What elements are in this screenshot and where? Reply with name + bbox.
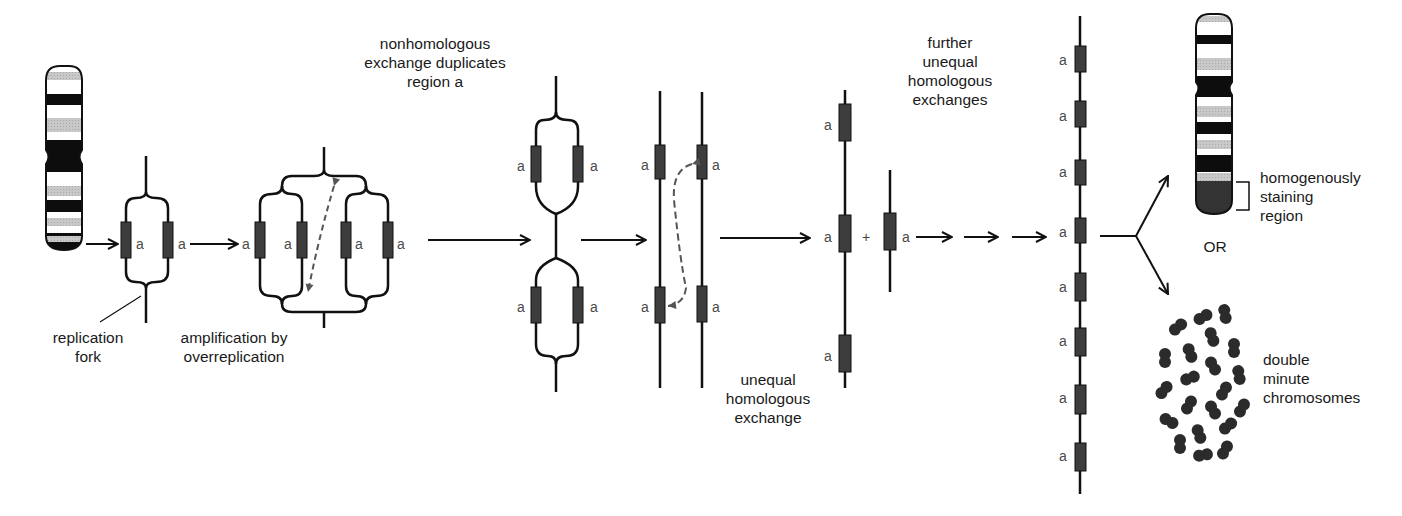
duplicated-region-structure: [536, 76, 578, 392]
svg-text:a: a: [1059, 224, 1067, 240]
svg-text:a: a: [1059, 108, 1067, 124]
gene-box: [573, 287, 583, 323]
svg-text:a: a: [355, 236, 363, 252]
svg-text:a: a: [590, 299, 598, 315]
label-replication-fork: replication fork: [40, 328, 136, 366]
replication-fork-bubble: [126, 156, 168, 323]
dashed-exchange-arrow: [308, 186, 334, 292]
svg-text:a: a: [824, 229, 832, 245]
svg-text:a: a: [1059, 448, 1067, 464]
gene-amplification-diagram: a a a a a a a a a a: [0, 0, 1402, 516]
gene-box: [531, 287, 541, 323]
svg-text:a: a: [517, 299, 525, 315]
svg-text:a: a: [590, 158, 598, 174]
paired-strands: [660, 91, 702, 388]
gene-box: [121, 222, 131, 258]
svg-text:a: a: [1059, 333, 1067, 349]
replication-fork-pointer: [100, 296, 141, 322]
svg-text:a: a: [517, 158, 525, 174]
svg-text:a: a: [242, 236, 250, 252]
one-copy-strand: a: [884, 170, 910, 292]
svg-text:a: a: [641, 157, 649, 173]
gene-box: [297, 222, 307, 258]
label-homogenously-staining-region: homogenously staining region: [1260, 168, 1361, 225]
svg-text:a: a: [824, 117, 832, 133]
gene-box: [697, 286, 707, 322]
svg-text:a: a: [902, 229, 910, 245]
label-nonhomologous-exchange: nonhomologous exchange duplicates region…: [350, 34, 520, 91]
hsr-bracket: [1236, 182, 1249, 210]
svg-text:a: a: [712, 157, 720, 173]
svg-text:a: a: [136, 236, 144, 252]
double-minute-chromosomes: [1153, 303, 1252, 463]
plus-sign: +: [862, 229, 870, 245]
svg-text:a: a: [1059, 390, 1067, 406]
gene-box: [531, 146, 541, 182]
gene-box: [655, 287, 665, 323]
chromosome-with-hsr: [1190, 10, 1240, 220]
svg-text:a: a: [284, 236, 292, 252]
gene-box: [655, 145, 665, 179]
svg-text:a: a: [712, 299, 720, 315]
svg-text:a: a: [397, 236, 405, 252]
three-copy-strand: a a a: [824, 90, 851, 388]
label-double-minute-chromosomes: double minute chromosomes: [1263, 350, 1360, 407]
gene-box: [163, 222, 173, 258]
svg-text:a: a: [1059, 279, 1067, 295]
chromosome-original: [40, 60, 90, 260]
dashed-exchange-arrow: [668, 164, 692, 306]
svg-text:a: a: [641, 299, 649, 315]
amplified-strand: a a a a a a a a: [1059, 16, 1086, 494]
label-or: OR: [1195, 237, 1235, 256]
label-further-exchanges: further unequal homologous exchanges: [898, 33, 1002, 109]
gene-box: [573, 146, 583, 182]
gene-box: [697, 145, 707, 179]
branch-arrows: [1100, 176, 1168, 294]
label-amplification: amplification by overreplication: [164, 328, 304, 366]
svg-text:a: a: [1059, 164, 1067, 180]
svg-text:a: a: [1059, 52, 1067, 68]
svg-text:a: a: [178, 236, 186, 252]
gene-box: [341, 222, 351, 258]
overreplication-structure: [260, 147, 388, 328]
gene-box: [383, 222, 393, 258]
svg-text:a: a: [824, 348, 832, 364]
gene-box: [255, 222, 265, 258]
label-unequal-exchange: unequal homologous exchange: [716, 370, 820, 427]
